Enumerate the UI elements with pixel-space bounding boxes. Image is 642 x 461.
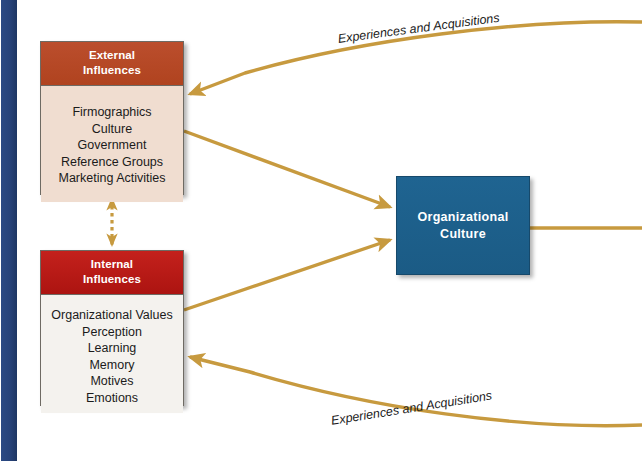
internal-header-line2: Influences bbox=[41, 272, 183, 287]
external-influences-box[interactable]: External Influences Firmographics Cultur… bbox=[40, 41, 184, 195]
external-influences-header: External Influences bbox=[41, 42, 183, 86]
external-item-reference-groups: Reference Groups bbox=[41, 154, 183, 171]
culture-line2: Culture bbox=[417, 226, 508, 243]
internal-item-learning: Learning bbox=[41, 340, 183, 357]
internal-item-organizational-values: Organizational Values bbox=[41, 307, 183, 324]
external-item-marketing-activities: Marketing Activities bbox=[41, 170, 183, 187]
organizational-culture-label: Organizational Culture bbox=[417, 209, 508, 243]
internal-header-line1: Internal bbox=[91, 258, 133, 270]
internal-influences-list: Organizational Values Perception Learnin… bbox=[41, 295, 183, 413]
culture-line1: Organizational bbox=[417, 209, 508, 226]
internal-item-motives: Motives bbox=[41, 373, 183, 390]
connector-internal-to-culture bbox=[184, 240, 390, 310]
organizational-culture-box[interactable]: Organizational Culture bbox=[396, 176, 530, 275]
external-header-line2: Influences bbox=[41, 63, 183, 78]
internal-influences-header: Internal Influences bbox=[41, 251, 183, 295]
internal-influences-box[interactable]: Internal Influences Organizational Value… bbox=[40, 250, 184, 406]
external-item-firmographics: Firmographics bbox=[41, 104, 183, 121]
connector-bottom-feedback bbox=[190, 357, 642, 426]
external-header-line1: External bbox=[89, 49, 135, 61]
connector-external-to-culture bbox=[184, 131, 390, 207]
external-item-culture: Culture bbox=[41, 121, 183, 138]
internal-item-memory: Memory bbox=[41, 357, 183, 374]
diagram-canvas: External Influences Firmographics Cultur… bbox=[0, 0, 642, 461]
internal-item-perception: Perception bbox=[41, 324, 183, 341]
internal-item-emotions: Emotions bbox=[41, 390, 183, 407]
external-item-government: Government bbox=[41, 137, 183, 154]
external-influences-list: Firmographics Culture Government Referen… bbox=[41, 86, 183, 202]
